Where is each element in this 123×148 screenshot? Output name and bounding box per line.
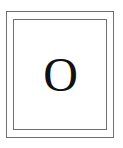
letter-glyph: O	[13, 19, 108, 131]
